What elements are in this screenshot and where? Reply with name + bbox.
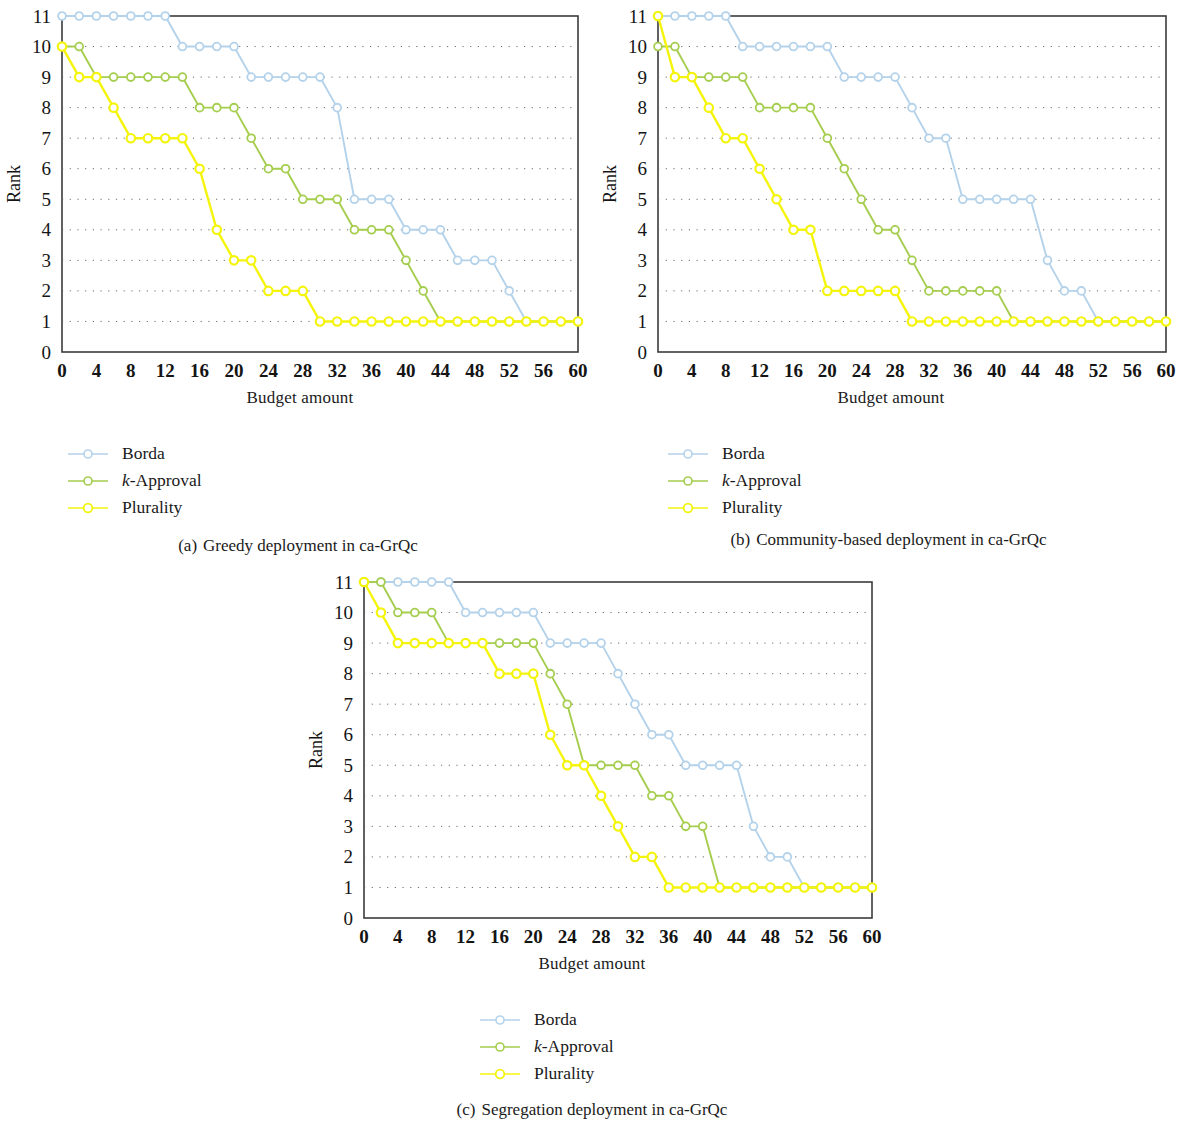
svg-text:2: 2 [344,846,354,867]
legend-label-plurality-b: Plurality [722,499,782,517]
legend-marker-plurality-icon [480,1067,520,1081]
svg-text:Rank: Rank [4,165,24,203]
svg-text:32: 32 [625,926,644,947]
legend-label-plurality-c: Plurality [534,1065,594,1083]
svg-text:28: 28 [592,926,611,947]
svg-text:3: 3 [638,250,648,271]
legend-marker-kapproval-icon [480,1040,520,1054]
caption-a-number: (a) [178,536,197,555]
svg-text:5: 5 [638,189,648,210]
svg-text:44: 44 [431,360,451,381]
svg-text:44: 44 [727,926,747,947]
svg-text:40: 40 [397,360,416,381]
svg-text:12: 12 [156,360,175,381]
figure-root: 0123456789101104812162024283236404448525… [0,0,1181,1136]
svg-text:0: 0 [653,360,663,381]
chart-panel-b: 0123456789101104812162024283236404448525… [596,0,1181,570]
svg-text:8: 8 [638,97,648,118]
chart-panel-a: 0123456789101104812162024283236404448525… [0,0,596,570]
svg-text:56: 56 [534,360,553,381]
svg-text:10: 10 [334,602,353,623]
legend-label-kapproval-a: k-Approval [122,472,202,490]
svg-text:7: 7 [42,128,52,149]
legend-item-borda-a: Borda [68,440,202,467]
legend-label-k-italic: k [122,470,130,490]
plot-area-c: 0123456789101104812162024283236404448525… [292,566,892,986]
svg-text:40: 40 [987,360,1006,381]
svg-text:4: 4 [92,360,102,381]
legend-label-k-italic: k [722,470,730,490]
legend-marker-kapproval-icon [68,474,108,488]
svg-text:48: 48 [761,926,780,947]
svg-text:0: 0 [359,926,369,947]
svg-text:48: 48 [1055,360,1074,381]
svg-text:9: 9 [344,633,354,654]
caption-c: (c)Segregation deployment in ca-GrQc [292,1100,892,1120]
legend-label-approval-rest: -Approval [130,470,202,490]
caption-a: (a)Greedy deployment in ca-GrQc [0,536,596,556]
svg-text:1: 1 [42,311,52,332]
legend-item-borda-b: Borda [668,440,802,467]
svg-text:28: 28 [886,360,905,381]
svg-text:8: 8 [42,97,52,118]
svg-text:8: 8 [721,360,731,381]
legend-label-borda-a: Borda [122,445,165,463]
legend-item-kapproval-b: k-Approval [668,467,802,494]
svg-text:11: 11 [629,6,647,27]
svg-text:8: 8 [427,926,437,947]
svg-text:56: 56 [829,926,848,947]
svg-text:52: 52 [1089,360,1108,381]
svg-text:9: 9 [638,67,648,88]
legend-label-approval-rest: -Approval [542,1036,614,1056]
svg-text:48: 48 [465,360,484,381]
caption-b-text: Community-based deployment in ca-GrQc [756,530,1046,549]
legend-item-kapproval-a: k-Approval [68,467,202,494]
svg-text:24: 24 [852,360,872,381]
line-chart-c: 0123456789101104812162024283236404448525… [292,566,892,966]
svg-text:4: 4 [42,219,52,240]
legend-a: Borda k-Approval Plurali [68,440,202,521]
svg-text:52: 52 [500,360,519,381]
svg-text:60: 60 [569,360,588,381]
svg-text:40: 40 [693,926,712,947]
legend-label-kapproval-b: k-Approval [722,472,802,490]
legend-label-borda-b: Borda [722,445,765,463]
caption-c-text: Segregation deployment in ca-GrQc [481,1100,727,1119]
svg-text:11: 11 [33,6,51,27]
svg-text:4: 4 [687,360,697,381]
svg-text:7: 7 [638,128,648,149]
svg-text:1: 1 [344,877,354,898]
plot-area-b: 0123456789101104812162024283236404448525… [596,0,1181,420]
legend-c: Borda k-Approval Plurali [480,1006,614,1087]
svg-text:36: 36 [659,926,678,947]
svg-text:16: 16 [190,360,209,381]
svg-text:20: 20 [225,360,244,381]
x-axis-title-b: Budget amount [616,388,1166,408]
svg-text:20: 20 [818,360,837,381]
svg-text:10: 10 [32,36,51,57]
svg-text:6: 6 [42,158,52,179]
chart-panel-c: 0123456789101104812162024283236404448525… [292,566,892,1136]
svg-text:Rank: Rank [600,165,620,203]
svg-text:6: 6 [344,724,354,745]
legend-marker-kapproval-icon [668,474,708,488]
svg-text:4: 4 [344,785,354,806]
svg-text:4: 4 [393,926,403,947]
svg-text:6: 6 [638,158,648,179]
plot-area-a: 0123456789101104812162024283236404448525… [0,0,596,420]
svg-text:5: 5 [42,189,52,210]
svg-text:0: 0 [638,342,648,363]
legend-label-kapproval-c: k-Approval [534,1038,614,1056]
svg-text:24: 24 [558,926,578,947]
legend-marker-borda-icon [668,447,708,461]
svg-text:10: 10 [628,36,647,57]
svg-text:0: 0 [42,342,52,363]
svg-text:60: 60 [863,926,882,947]
legend-label-k-italic: k [534,1036,542,1056]
svg-text:24: 24 [259,360,279,381]
legend-label-approval-rest: -Approval [730,470,802,490]
svg-text:8: 8 [344,663,354,684]
svg-text:4: 4 [638,219,648,240]
svg-text:9: 9 [42,67,52,88]
svg-text:0: 0 [57,360,67,381]
